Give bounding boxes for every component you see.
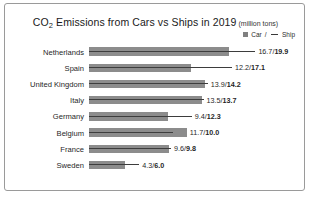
ship-line bbox=[89, 83, 208, 84]
car-value: 13.5 bbox=[207, 96, 221, 105]
title-units-label: (million tons) bbox=[238, 20, 278, 27]
bar-track: 13.9/14.2 bbox=[89, 76, 306, 92]
bar-track: 9.4/12.3 bbox=[89, 109, 306, 125]
legend-car-swatch-icon bbox=[243, 32, 248, 37]
bar-track: 4.3/6.0 bbox=[89, 157, 306, 173]
title-subscript-2: 2 bbox=[49, 21, 53, 30]
ship-value: 6.0 bbox=[154, 161, 164, 170]
ship-line bbox=[89, 67, 232, 68]
value-label: 12.2/17.1 bbox=[235, 63, 265, 72]
bar-track: 12.2/17.1 bbox=[89, 60, 306, 76]
car-value: 13.9 bbox=[211, 80, 225, 89]
ship-value: 19.9 bbox=[274, 47, 288, 56]
bar-row: Belgium11.7/10.0 bbox=[5, 125, 306, 141]
chart-legend: Car / Ship bbox=[243, 31, 295, 38]
bar-track: 11.7/10.0 bbox=[89, 125, 306, 141]
category-label-france: France bbox=[5, 145, 89, 154]
value-label: 13.9/14.2 bbox=[211, 80, 241, 89]
car-value: 9.4 bbox=[195, 112, 205, 121]
category-label-spain: Spain bbox=[5, 64, 89, 73]
car-value: 9.6 bbox=[174, 144, 184, 153]
legend-separator: / bbox=[265, 31, 267, 38]
bar-row: Netherlands16.7/19.9 bbox=[5, 44, 306, 60]
category-label-belgium: Belgium bbox=[5, 129, 89, 138]
value-label: 9.6/9.8 bbox=[174, 144, 196, 153]
bar-track: 16.7/19.9 bbox=[89, 44, 306, 60]
legend-ship-line-icon bbox=[271, 34, 278, 35]
bar-track: 13.5/13.7 bbox=[89, 93, 306, 109]
ship-value: 13.7 bbox=[223, 96, 237, 105]
ship-value: 9.8 bbox=[186, 144, 196, 153]
bar-row: Germany9.4/12.3 bbox=[5, 109, 306, 125]
ship-value: 14.2 bbox=[227, 80, 241, 89]
category-label-sweden: Sweden bbox=[5, 161, 89, 170]
ship-line bbox=[89, 164, 139, 165]
value-label: 11.7/10.0 bbox=[190, 128, 219, 137]
bar-row: United Kingdom13.9/14.2 bbox=[5, 76, 306, 92]
legend-ship-label: Ship bbox=[282, 31, 295, 38]
bar-row: Spain12.2/17.1 bbox=[5, 60, 306, 76]
chart-frame: CO2 Emissions from Cars vs Ships in 2019… bbox=[4, 3, 305, 191]
bar-row: France9.6/9.8 bbox=[5, 141, 306, 157]
ship-value: 12.3 bbox=[207, 112, 221, 121]
car-value: 12.2 bbox=[235, 63, 249, 72]
ship-line bbox=[89, 51, 255, 52]
value-label: 4.3/6.0 bbox=[142, 161, 164, 170]
ship-line bbox=[89, 99, 204, 100]
bar-row: Italy13.5/13.7 bbox=[5, 93, 306, 109]
bar-row: Sweden4.3/6.0 bbox=[5, 157, 306, 173]
car-value: 16.7 bbox=[258, 47, 272, 56]
value-label: 16.7/19.9 bbox=[258, 47, 288, 56]
ship-value: 17.1 bbox=[251, 63, 265, 72]
category-label-netherlands: Netherlands bbox=[5, 48, 89, 57]
ship-line bbox=[89, 116, 192, 117]
ship-value: 10.0 bbox=[205, 128, 219, 137]
legend-car-label: Car bbox=[251, 31, 261, 38]
car-value: 11.7 bbox=[190, 128, 203, 137]
plot-area: Netherlands16.7/19.9Spain12.2/17.1United… bbox=[5, 44, 306, 174]
car-value: 4.3 bbox=[142, 161, 152, 170]
category-label-united-kingdom: United Kingdom bbox=[5, 80, 89, 89]
ship-line bbox=[89, 148, 171, 149]
title-co-text: CO bbox=[33, 16, 49, 28]
ship-line bbox=[89, 132, 173, 133]
title-rest-text: Emissions from Cars vs Ships in 2019 bbox=[53, 16, 236, 28]
value-label: 13.5/13.7 bbox=[207, 96, 237, 105]
page-title: CO2 Emissions from Cars vs Ships in 2019 bbox=[33, 16, 237, 28]
chart-title-row: CO2 Emissions from Cars vs Ships in 2019… bbox=[5, 12, 306, 30]
category-label-italy: Italy bbox=[5, 96, 89, 105]
category-label-germany: Germany bbox=[5, 112, 89, 121]
value-label: 9.4/12.3 bbox=[195, 112, 221, 121]
bar-track: 9.6/9.8 bbox=[89, 141, 306, 157]
